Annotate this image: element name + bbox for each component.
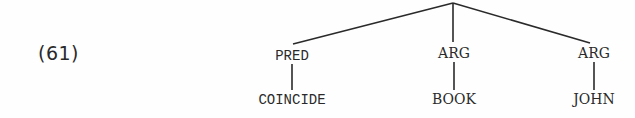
tree-diagram: (61) PRED ARG ARG COINCIDE BOOK JOHN bbox=[0, 0, 635, 118]
leaf-coincide: COINCIDE bbox=[258, 92, 325, 108]
leaf-john: JOHN bbox=[573, 91, 615, 107]
node-arg-1: ARG bbox=[438, 45, 470, 61]
node-arg-2: ARG bbox=[578, 45, 610, 61]
leaf-book: BOOK bbox=[432, 91, 476, 107]
edge-root-pred bbox=[293, 3, 453, 44]
node-pred: PRED bbox=[275, 48, 309, 64]
edge-root-arg-2 bbox=[453, 3, 590, 43]
